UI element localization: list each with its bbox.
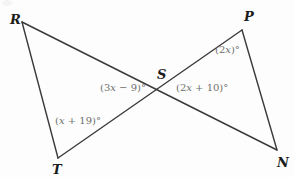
angle-label-T: (x + 19)° [55,116,101,126]
vertex-label-N: N [277,156,289,169]
angle-T-suffix: + 19)° [65,115,101,126]
angle-label-P: (2x)° [215,45,240,55]
segment-R-T [22,22,58,158]
vertex-label-P: P [244,10,254,23]
angle-label-PSN: (2x + 10)° [176,83,228,93]
angle-P-suffix: )° [231,44,240,55]
segment-P-N [242,30,277,150]
vertex-label-S: S [157,68,166,81]
angle-RST-prefix: (3 [100,82,110,93]
angle-label-RST: (3x − 9)° [100,83,146,93]
geometry-diagram: R P S T N (3x − 9)° (2x + 10)° (2x)° (x … [0,0,295,177]
figure-lines [0,0,295,177]
angle-RST-suffix: − 9)° [116,82,146,93]
angle-PSN-prefix: (2 [176,82,186,93]
segment-R-N [22,22,277,150]
angle-P-prefix: (2 [215,44,225,55]
angle-PSN-suffix: + 10)° [192,82,228,93]
vertex-label-R: R [10,13,21,26]
vertex-label-T: T [52,163,62,176]
